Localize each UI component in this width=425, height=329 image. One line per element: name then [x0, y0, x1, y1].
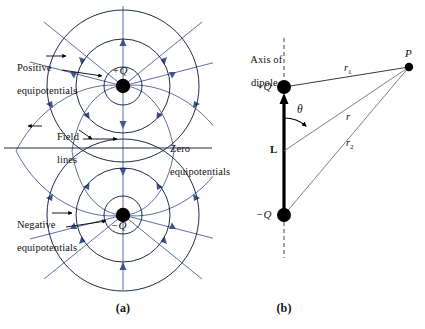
r2-label: r2: [335, 125, 354, 165]
zero-equipotentials-line1: Zero: [170, 143, 190, 154]
zero-equipotentials-line2: equipotentials: [170, 166, 230, 177]
field-lines-line2: lines: [57, 154, 77, 165]
positive-equipotentials-line2: equipotentials: [17, 85, 77, 96]
field-arrow-below-positive: [120, 121, 127, 129]
panel-b-positive-charge-label: +Q: [256, 81, 272, 93]
zero-equipotentials-label: Zero equipotentials: [159, 131, 230, 189]
negative-equipotentials-label: Negative equipotentials: [6, 207, 77, 265]
field-point-dot: [405, 63, 413, 71]
r-base: r: [346, 111, 350, 122]
panel-b-caption: (b): [277, 303, 292, 315]
theta-arc: [284, 118, 306, 126]
field-lines-label: Field lines: [46, 119, 79, 177]
r2-subscript: 2: [350, 143, 354, 151]
field-arrow-above-negative: [120, 168, 127, 176]
field-point-label: P: [405, 48, 412, 60]
panel-a-positive-charge-label: +Q: [112, 65, 128, 77]
panel-a-caption: (a): [116, 303, 130, 315]
field-lines-line1: Field: [57, 131, 79, 142]
positive-equipotentials-line1: Positive: [17, 62, 52, 73]
dipole-length-label: L: [270, 144, 277, 156]
positive-charge-dot: [116, 79, 130, 93]
theta-label: θ: [297, 104, 303, 116]
field-line-diag-up-right: [123, 22, 202, 86]
negative-equipotentials-line1: Negative: [17, 219, 56, 230]
panel-a-negative-charge-label: −Q: [111, 220, 127, 232]
field-arrow-down-axis: [120, 262, 127, 270]
field-arrow-diag-mr: [169, 72, 176, 79]
axis-of-dipole-line1: Axis of: [250, 54, 282, 65]
panel-b-negative-charge-dot: [277, 208, 291, 222]
positive-equipotentials-label: Positive equipotentials: [6, 50, 77, 108]
r1-subscript: 1: [348, 68, 352, 76]
field-line-diag-down-right: [123, 215, 202, 279]
figure-container: Positive equipotentials Field lines Zero…: [0, 0, 425, 329]
negative-equipotentials-line2: equipotentials: [17, 242, 77, 253]
panel-b-negative-charge-label: −Q: [256, 209, 272, 221]
leader-field-lines-right-1: [79, 130, 92, 139]
field-arrow-diag-br: [169, 223, 176, 230]
r1-label: r1: [333, 50, 352, 90]
